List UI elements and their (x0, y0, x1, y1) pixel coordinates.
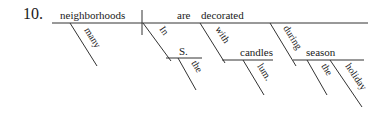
modifier-holiday: holiday (343, 61, 369, 92)
object-season: season (306, 46, 336, 58)
verb-aux-word: are (177, 9, 191, 21)
subject-word: neighborhoods (60, 9, 125, 21)
modifier-the-1: the (189, 58, 205, 75)
preposition-in: In (157, 24, 171, 37)
modifier-many: many (82, 25, 103, 50)
preposition-with: with (213, 24, 232, 45)
object-candles: candles (240, 46, 273, 58)
object-s: S. (179, 45, 188, 57)
verb-word: decorated (201, 9, 244, 21)
modifier-lum: lum. (255, 61, 274, 82)
diagram-number: 10. (23, 5, 43, 22)
sentence-diagram: 10. neighborhoods are decorated many In … (0, 0, 386, 113)
